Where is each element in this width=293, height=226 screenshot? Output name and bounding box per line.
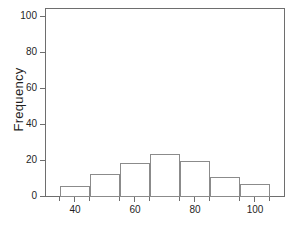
x-tick-mark [74,197,75,202]
x-tick-mark [239,197,240,201]
x-tick-label: 100 [241,204,269,215]
y-tick-mark [40,16,45,17]
x-tick-mark [119,197,120,201]
x-tick-mark [194,197,195,202]
y-tick-label: 20 [26,154,37,165]
x-tick-mark [209,197,210,201]
y-tick-mark [40,196,45,197]
y-tick-label: 40 [26,118,37,129]
histogram-bar [210,177,240,197]
histogram-figure: Frequency 020406080100 406080100 [0,0,293,226]
histogram-bar [90,174,120,197]
x-tick-label: 80 [181,204,209,215]
histogram-bar [150,154,180,197]
plot-area [45,8,285,197]
y-tick-mark [40,124,45,125]
histogram-bar [240,184,270,197]
y-axis-label: Frequency [11,45,26,155]
y-tick-mark [40,160,45,161]
y-tick-label: 80 [26,46,37,57]
x-tick-mark [269,197,270,201]
caption-sliver [0,221,293,226]
x-tick-mark [254,197,255,202]
x-tick-label: 60 [121,204,149,215]
y-tick-label: 0 [31,190,37,201]
y-tick-mark [40,88,45,89]
histogram-bar [120,163,150,197]
histogram-bar [180,161,210,197]
x-tick-mark [89,197,90,201]
histogram-bar [60,186,90,197]
x-tick-mark [179,197,180,201]
x-tick-mark [149,197,150,201]
x-tick-mark [134,197,135,202]
y-tick-label: 60 [26,82,37,93]
y-tick-mark [40,52,45,53]
y-tick-label: 100 [20,10,37,21]
x-tick-label: 40 [61,204,89,215]
x-tick-mark [59,197,60,201]
